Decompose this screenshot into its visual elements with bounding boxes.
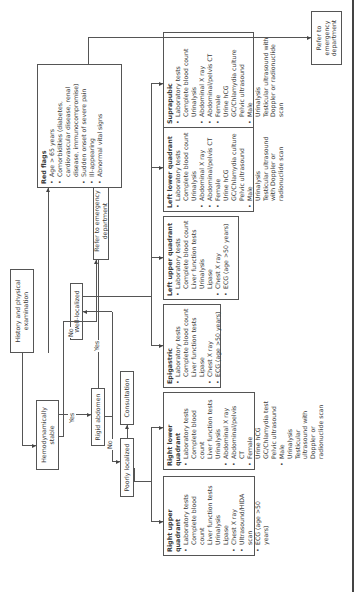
connector-line [88,38,89,64]
red-flag-item: Abnormal vital signs [96,68,104,177]
connector-line [83,311,112,312]
poorly-localized-label: Poorly localized [123,443,131,491]
arrow-head [83,311,87,315]
rlq-subitem: Urinalysis [214,396,222,459]
flowchart-canvas: History and physical examination Hemodyn… [0,0,355,592]
edge-label-no: No [67,327,75,338]
ruq-item: Laboratory tests [182,494,189,545]
suprapubic-subitem: Urinalysis [190,36,198,117]
rlq-item: Abdominal X ray [222,396,230,459]
refer-ed-label-1: Refer to emergency department [93,186,109,256]
llq-item: Laboratory tests [174,150,181,201]
rlq-subitem: GC/Chlamydia test [262,396,270,459]
right-lower-quadrant-box: Right lower quadrant Laboratory tests Co… [163,392,255,470]
ruq-subitem: Urinalysis [214,480,222,545]
suprapubic-title: Suprapubic [166,36,174,124]
ruq-subitem: Lipase [222,480,230,545]
llq-subitem: Testicular ultrasound with Doppler or ra… [262,128,286,201]
connector-line [151,428,152,522]
connector-line [63,322,64,437]
llq-item: Female [214,179,221,201]
connector-line [96,260,97,322]
red-flag-item: Sudden onset of severe pain [80,68,88,177]
edge-label-no: No [106,439,114,450]
luq-subitem: Lipase [206,220,214,289]
ruq-title: Right upper quadrant [166,480,182,552]
arrow-head [159,83,163,87]
rlq-subitem: Pelvic ultrasound [270,396,278,459]
arrow-head [307,37,311,41]
red-flag-item: Ill-appearing [88,68,96,177]
arrow-head [87,414,91,418]
llq-subitem: Urine hCG [222,128,230,201]
arrow-head [159,521,163,525]
llq-subitem: Complete blood count [182,128,190,201]
llq-item: Abdominal/pelvis CT [206,128,214,201]
rlq-item: Laboratory tests [182,408,189,459]
ruq-item: ECG (age >50 years) [254,480,270,545]
luq-item: ECG (age >50 years) [222,220,230,289]
refer-ed-box-1: Refer to emergency department [93,182,109,260]
arrow-head [159,257,163,261]
suprapubic-subitem: GC/Chlamydia culture [230,36,238,117]
left-lower-quadrant-box: Left lower quadrant Laboratory tests Com… [163,124,254,212]
page-edge-line [352,0,354,592]
refer-ed-box-2: Refer to emergency department [311,11,342,65]
epigastric-item: Laboratory tests [174,326,181,377]
connector-line [48,188,49,353]
connector-line [151,84,152,346]
arrow-head [32,445,36,449]
luq-subitem: Urinalysis [198,220,206,289]
ruq-subitem: Complete blood count [190,480,206,545]
red-flags-box: Red flags Age > 65 years Comorbidities (… [37,64,122,188]
arrow-head [125,425,129,429]
ruq-subitem: Liver function tests [206,480,214,545]
llq-subitem: Pelvic ultrasound [238,128,246,201]
connector-line [112,312,113,417]
luq-item: Chest X ray [214,220,222,289]
epigastric-title: Epigastric [166,308,174,384]
hemodynamically-stable-box: Hemodynamically stable [36,400,59,470]
consultation-label: Consultation [123,379,131,418]
rlq-title: Right lower quadrant [166,396,182,466]
rlq-subitem: Urinalysis [286,396,294,459]
epigastric-subitem: Lipase [198,308,206,377]
right-upper-quadrant-box: Right upper quadrant Laboratory tests Co… [163,476,255,556]
edge-label-yes: Yes [93,340,101,352]
llq-subitem: Urinalysis [254,128,262,201]
epigastric-subitem: Liver function tests [190,308,198,377]
edge-label-yes: Yes [68,412,76,424]
red-flags-title: Red flags [40,68,48,184]
epigastric-item: ECG (age >50 years) [214,308,222,377]
epigastric-box: Epigastric Laboratory tests Complete blo… [163,304,221,388]
luq-subitem: Liver function tests [190,220,198,289]
connector-line [22,353,23,446]
arrow-head [159,167,163,171]
llq-subitem: GC/Chlamydia culture [230,128,238,201]
luq-item: Laboratory tests [174,238,181,289]
arrow-head [46,188,50,192]
llq-subitem: Urinalysis [190,128,198,201]
llq-item: Male [246,186,253,201]
rlq-item: Abdominal/pelvis CT [230,396,246,459]
ruq-item: Ultrasound/HIDA scan [238,480,254,545]
rlq-item: Female [246,437,253,459]
connector-line [134,468,135,482]
rigid-abdomen-box: Rigid abdomen [91,388,105,446]
arrow-head [94,260,98,264]
connector-line [63,321,96,322]
poorly-localized-box: Poorly localized [120,438,134,497]
epigastric-item: Chest X ray [206,308,214,377]
rlq-subitem: Testicular ultrasound with Doppler or ra… [294,396,326,459]
suprapubic-subitem: Pelvic ultrasound [238,36,246,117]
arrow-head [159,345,163,349]
refer-ed-label-2: Refer to emergency department [315,15,339,61]
left-upper-quadrant-box: Left upper quadrant Laboratory tests Com… [163,216,239,300]
history-exam-box: History and physical examination [10,269,34,353]
luq-subitem: Complete blood count [182,220,190,289]
luq-title: Left upper quadrant [166,220,174,296]
arrow-head [159,427,163,431]
red-flag-item: Comorbidities (diabetes, cardiovascular … [56,68,80,177]
history-exam-label: History and physical examination [14,273,30,349]
connector-line [105,416,112,417]
